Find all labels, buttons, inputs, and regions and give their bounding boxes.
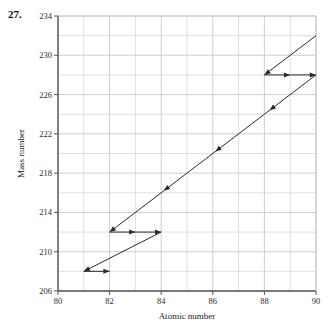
x-axis-title: Atomic number bbox=[159, 311, 216, 321]
y-tick-label: 222 bbox=[39, 129, 52, 139]
chart-canvas: 808284868890 206210214218222226230234 At… bbox=[0, 0, 331, 325]
y-tick-label: 234 bbox=[39, 11, 53, 21]
x-tick-label: 88 bbox=[260, 296, 269, 306]
arrowhead-alpha-decay-lower bbox=[84, 266, 91, 271]
x-tick-label: 80 bbox=[54, 296, 63, 306]
x-tick-label: 82 bbox=[105, 296, 114, 306]
arrowhead-mid-beta-decay-212 bbox=[129, 230, 135, 235]
y-tick-label: 218 bbox=[39, 168, 52, 178]
decay-path-group bbox=[84, 36, 316, 274]
x-tick-label: 84 bbox=[157, 296, 166, 306]
y-axis-tick-labels: 206210214218222226230234 bbox=[39, 11, 53, 296]
arrowhead-mid-beta-decay-228 bbox=[284, 72, 290, 77]
arrowhead-alpha-decay-long-main bbox=[110, 226, 116, 232]
decay-series-figure: 27. 808284868890 20621021421822222623023… bbox=[0, 0, 331, 325]
y-tick-label: 206 bbox=[39, 286, 52, 296]
x-tick-label: 90 bbox=[312, 296, 321, 306]
y-tick-label: 230 bbox=[39, 50, 52, 60]
arrowhead-alpha-decay-upper bbox=[264, 69, 270, 75]
arrowhead-beta-decay-208 bbox=[103, 269, 109, 274]
arrowhead-midpoint bbox=[215, 146, 221, 152]
problem-number: 27. bbox=[8, 8, 22, 20]
y-axis-title: Mass number bbox=[16, 129, 26, 178]
x-tick-label: 86 bbox=[209, 296, 218, 306]
arrowhead-midpoint bbox=[164, 185, 170, 191]
y-tick-label: 210 bbox=[39, 247, 52, 257]
y-tick-label: 214 bbox=[39, 207, 53, 217]
arrowhead-midpoint bbox=[270, 105, 276, 111]
x-axis-tick-labels: 808284868890 bbox=[54, 296, 321, 306]
y-tick-label: 226 bbox=[39, 90, 52, 100]
